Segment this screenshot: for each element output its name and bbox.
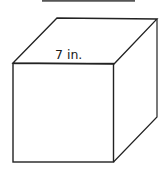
cube-diagram: 7 in. — [0, 0, 167, 173]
cube-right-face — [114, 19, 158, 162]
cube-top-face — [13, 18, 157, 64]
cube-svg: 7 in. — [0, 0, 167, 173]
edge-length-label: 7 in. — [55, 47, 82, 62]
cube-front-face — [13, 64, 114, 163]
